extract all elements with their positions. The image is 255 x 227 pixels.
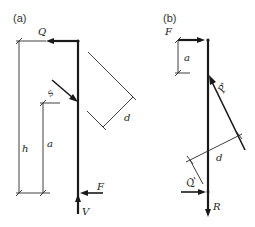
force-q-arrow-b	[181, 189, 209, 195]
dimension-h-label: h	[22, 143, 28, 154]
force-q-label-b: Q'	[185, 175, 199, 189]
force-f-label-a: F	[96, 181, 105, 192]
dimension-d-b	[186, 131, 242, 164]
force-v-label: V	[82, 206, 91, 217]
force-q-arrow	[16, 38, 78, 44]
force-q-label: Q	[38, 26, 46, 37]
force-f-arrow-b	[175, 37, 205, 43]
panel-b: (b) F a P' d	[163, 12, 245, 217]
force-diagram: (a) Q h a	[0, 0, 255, 227]
dimension-d-a-label: d	[124, 112, 130, 123]
force-f-label-b: F	[164, 26, 173, 37]
force-s-arrow	[52, 80, 78, 102]
joint-top-b	[206, 38, 209, 41]
dimension-d-b-label: d	[216, 152, 222, 163]
dimension-baseline	[16, 190, 50, 196]
force-r-arrow	[205, 209, 211, 217]
dimension-a-b-label: a	[184, 52, 190, 63]
force-r-label: R	[212, 201, 221, 212]
panel-a-label: (a)	[13, 12, 26, 24]
panel-b-label: (b)	[163, 12, 176, 24]
force-v-arrow	[75, 194, 81, 202]
force-s-label: s	[44, 87, 55, 99]
panel-a: (a) Q h a	[13, 12, 136, 217]
dimension-a-label: a	[47, 138, 53, 149]
